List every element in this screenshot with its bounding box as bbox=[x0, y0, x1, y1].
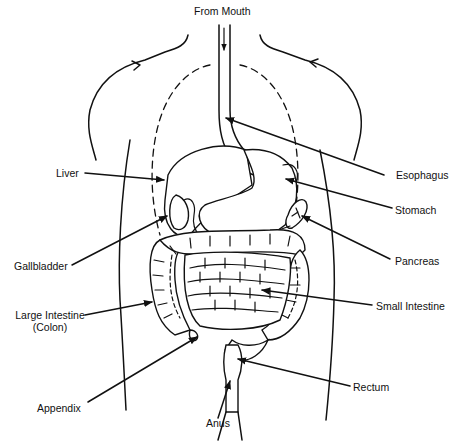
label-esophagus: Esophagus bbox=[396, 169, 449, 181]
label-rectum: Rectum bbox=[353, 381, 389, 393]
label-liver: Liver bbox=[56, 167, 79, 179]
label-large-intestine-line2: (Colon) bbox=[10, 321, 90, 333]
label-gallbladder: Gallbladder bbox=[14, 260, 68, 272]
label-stomach: Stomach bbox=[395, 204, 436, 216]
label-large-intestine-line1: Large Intestine bbox=[10, 309, 90, 321]
label-anus: Anus bbox=[206, 417, 230, 429]
digestive-system-diagram: From Mouth Liver Gallbladder Large Intes… bbox=[0, 0, 454, 441]
label-large-intestine: Large Intestine (Colon) bbox=[10, 309, 90, 333]
label-from-mouth: From Mouth bbox=[194, 5, 251, 17]
small-intestine bbox=[184, 252, 290, 329]
label-small-intestine: Small Intestine bbox=[376, 300, 445, 312]
anatomy-drawing bbox=[0, 0, 454, 441]
label-appendix: Appendix bbox=[37, 402, 81, 414]
label-pancreas: Pancreas bbox=[395, 255, 439, 267]
